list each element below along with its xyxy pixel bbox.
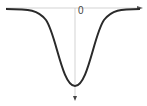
- origin-label: 0: [78, 5, 84, 16]
- y-axis-arrow-icon: [73, 96, 77, 101]
- gaussian-diagram: [0, 0, 147, 106]
- gaussian-curve: [6, 9, 140, 86]
